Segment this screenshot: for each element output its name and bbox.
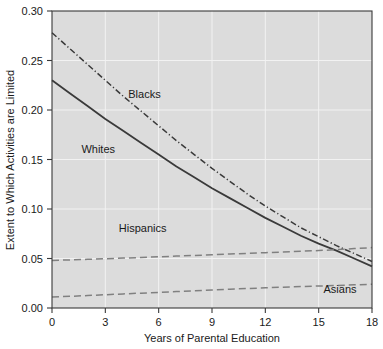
y-tick-label: 0.15 — [22, 154, 43, 166]
x-tick-label: 15 — [313, 316, 325, 328]
series-label-whites: Whites — [81, 143, 115, 155]
x-tick-label: 3 — [102, 316, 108, 328]
y-tick-label: 0.20 — [22, 104, 43, 116]
x-tick-label: 9 — [209, 316, 215, 328]
y-tick-label: 0.10 — [22, 203, 43, 215]
series-label-hispanics: Hispanics — [119, 222, 167, 234]
y-tick-label: 0.00 — [22, 302, 43, 314]
x-tick-label: 12 — [259, 316, 271, 328]
y-axis-title: Extent to Which Activities are Limited — [4, 70, 16, 250]
y-tick-label: 0.05 — [22, 253, 43, 265]
x-tick-label: 0 — [49, 316, 55, 328]
x-axis-title: Years of Parental Education — [144, 332, 280, 344]
y-tick-label: 0.25 — [22, 55, 43, 67]
chart-canvas: 0369121518 0.000.050.100.150.200.250.30 … — [0, 0, 383, 349]
y-axis-tick-labels: 0.000.050.100.150.200.250.30 — [22, 5, 43, 314]
x-axis-tick-labels: 0369121518 — [49, 316, 378, 328]
y-tick-label: 0.30 — [22, 5, 43, 17]
series-label-asians: Asians — [323, 283, 357, 295]
series-label-blacks: Blacks — [128, 88, 161, 100]
chart-figure: 0369121518 0.000.050.100.150.200.250.30 … — [0, 0, 383, 349]
x-axis-ticks — [52, 308, 372, 313]
x-tick-label: 18 — [366, 316, 378, 328]
y-axis-ticks — [47, 11, 52, 308]
x-tick-label: 6 — [156, 316, 162, 328]
